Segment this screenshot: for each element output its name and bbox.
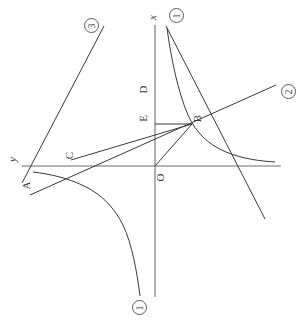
point-label-C: C	[64, 152, 75, 159]
point-label-A: A	[21, 182, 32, 190]
origin-label-O: O	[155, 174, 166, 182]
point-label-B: B	[192, 115, 203, 122]
marker-1-top-text: 1	[172, 13, 182, 18]
hyperbola-branch-lower-left	[33, 172, 140, 296]
x-axis-label: x	[147, 15, 158, 20]
y-axis-label: y	[7, 157, 18, 162]
marker-2: 2	[281, 84, 296, 99]
marker-2-text: 2	[284, 89, 294, 94]
marker-1-bottom: 1	[132, 300, 147, 315]
marker-1-top: 1	[169, 8, 184, 23]
line-2-through-origin	[30, 85, 276, 195]
hyperbola-branch-upper-right	[167, 28, 275, 162]
point-label-E: E	[138, 115, 149, 122]
marker-1-bottom-text: 1	[135, 305, 145, 310]
marker-3-text: 3	[87, 23, 97, 28]
line-3-through-A-C-D	[22, 26, 104, 183]
line-descending-through-B	[166, 26, 265, 219]
segment-CB	[71, 124, 192, 160]
geometry-figure: x y A B C D E O 1 1 2 3	[0, 0, 306, 329]
marker-3: 3	[84, 18, 99, 33]
figure-canvas	[0, 0, 306, 329]
point-label-D: D	[138, 86, 149, 94]
